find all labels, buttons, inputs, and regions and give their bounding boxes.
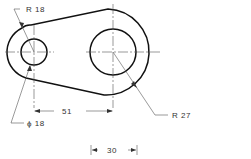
label-30: 30	[107, 146, 117, 155]
arrow-30-right	[131, 148, 136, 152]
arrow-51-right	[107, 109, 113, 113]
arrow-phi18	[27, 65, 32, 71]
label-r27: R 27	[172, 111, 191, 120]
arrow-51-left	[34, 109, 40, 113]
label-r18: R 18	[26, 5, 45, 14]
technical-drawing: R 18 ϕ 18 51 R 27 30	[0, 0, 251, 159]
label-phi18: ϕ 18	[27, 119, 45, 128]
arrow-30-left	[92, 148, 97, 152]
label-51: 51	[62, 107, 72, 116]
leader-r27	[113, 52, 168, 115]
leader-phi18	[11, 66, 30, 123]
